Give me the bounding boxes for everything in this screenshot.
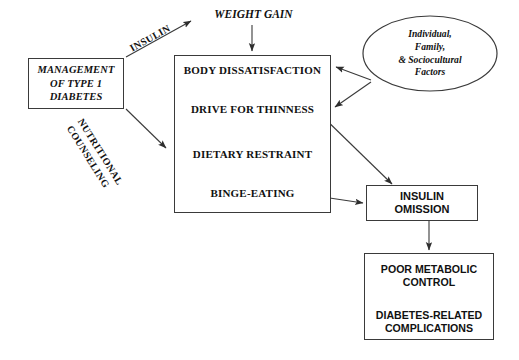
outcome-0-line-1: POOR METABOLIC (365, 263, 493, 276)
management-of-type-1-diabetes-box: MANAGEMENT OF TYPE 1 DIABETES (28, 58, 124, 109)
factors-line-3: & Sociocultural (398, 54, 461, 67)
core-item-binge-eating: BINGE-EATING (175, 187, 330, 199)
outcome-diabetes-related-complications: DIABETES-RELATED COMPLICATIONS (365, 309, 493, 335)
outcome-1-line-1: DIABETES-RELATED (365, 309, 493, 322)
edge-management-to-dietary-restraint (126, 109, 166, 148)
management-line-1: MANAGEMENT (38, 63, 115, 77)
core-item-dietary-restraint: DIETARY RESTRAINT (175, 148, 330, 160)
factors-ellipse-text: Individual, Family, & Sociocultural Fact… (398, 28, 461, 78)
factors-line-4: Factors (398, 66, 461, 79)
factors-line-2: Family, (398, 41, 461, 54)
outcome-1-line-2: COMPLICATIONS (365, 322, 493, 335)
factors-line-1: Individual, (398, 28, 461, 41)
core-item-drive-for-thinness: DRIVE FOR THINNESS (175, 103, 330, 115)
insulin-omission-line-1: INSULIN (400, 190, 444, 204)
diagram-canvas: MANAGEMENT OF TYPE 1 DIABETES WEIGHT GAI… (0, 0, 519, 360)
edge-label-insulin: INSULIN (128, 22, 172, 53)
management-line-3: DIABETES (50, 90, 103, 104)
insulin-omission-line-2: OMISSION (394, 203, 449, 217)
core-item-body-dissatisfaction: BODY DISSATISFACTION (175, 64, 330, 76)
eating-pathology-cluster-box: BODY DISSATISFACTION DRIVE FOR THINNESS … (174, 55, 331, 213)
weight-gain-label: WEIGHT GAIN (196, 8, 311, 20)
outcome-poor-metabolic-control: POOR METABOLIC CONTROL (365, 263, 493, 289)
insulin-omission-box: INSULIN OMISSION (366, 185, 478, 221)
diabetes-outcomes-box: POOR METABOLIC CONTROL DIABETES-RELATED … (364, 253, 494, 340)
outcome-0-line-2: CONTROL (365, 276, 493, 289)
edge-label-nutritional-counseling: NUTRITIONAL COUNSELING (64, 116, 139, 215)
management-line-2: OF TYPE 1 (50, 77, 102, 91)
factors-ellipse: Individual, Family, & Sociocultural Fact… (363, 16, 497, 91)
